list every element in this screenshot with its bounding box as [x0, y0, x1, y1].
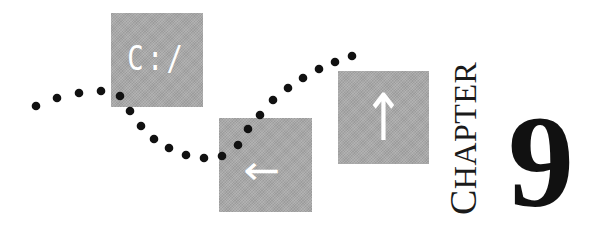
path-dot	[269, 96, 278, 105]
path-dot	[137, 122, 146, 131]
path-dot	[315, 65, 324, 74]
path-dot	[348, 52, 357, 61]
chapter-number: 9	[508, 96, 574, 228]
path-dot	[244, 125, 253, 134]
path-dot	[97, 87, 106, 96]
path-dot	[256, 111, 265, 120]
path-dot	[218, 152, 227, 161]
path-dot	[234, 141, 243, 150]
path-dot	[284, 84, 293, 93]
path-dot	[331, 58, 340, 67]
path-dot	[53, 94, 62, 103]
path-dot	[75, 89, 84, 98]
chapter-label-initial: C	[442, 189, 484, 215]
path-dot	[165, 144, 174, 153]
chapter-label-rest: HAPTER	[447, 62, 483, 189]
path-dot	[116, 92, 125, 101]
chapter-title-banner: C:/ ← ↑ CHAPTER 9	[0, 0, 606, 231]
path-dot	[182, 151, 191, 160]
chapter-label: CHAPTER	[445, 62, 483, 215]
path-dot	[126, 107, 135, 116]
path-dot	[299, 74, 308, 83]
path-dot	[200, 154, 209, 163]
path-dot	[32, 102, 41, 111]
path-dot	[150, 135, 159, 144]
